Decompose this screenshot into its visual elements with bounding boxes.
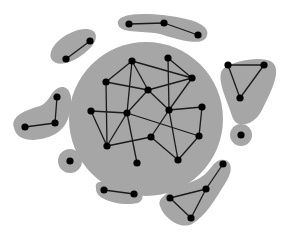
node-dot [236,94,243,101]
node-dot [62,55,69,62]
node-dot [100,186,107,193]
node-dot [21,123,28,130]
node-dot [224,61,231,68]
node-dot [194,31,201,38]
node-dot [51,119,58,126]
node-dot [187,214,194,221]
cluster-hulls [13,14,276,226]
left-chain-hull [13,87,71,140]
node-dot [66,157,73,164]
node-dot [128,57,135,64]
node-dot [102,78,109,85]
node-dot [237,131,244,138]
node-dot [123,109,130,116]
node-dot [160,19,167,26]
node-dot [165,106,172,113]
node-dot [166,194,173,201]
top-chain-hull [118,14,208,42]
node-dot [130,190,137,197]
node-dot [144,86,151,93]
node-dot [87,107,94,114]
node-dot [219,160,226,167]
node-dot [86,37,93,44]
node-dot [260,61,267,68]
node-dot [53,93,60,100]
node-dot [188,74,195,81]
node-dot [195,132,202,139]
upper-left-pair-hull [50,29,95,64]
node-dot [103,142,110,149]
node-dot [164,54,171,61]
node-dot [174,156,181,163]
node-dot [125,20,132,27]
node-dot [198,103,205,110]
node-dot [133,159,140,166]
network-cluster-diagram [0,0,290,241]
diagram-canvas [0,0,290,241]
node-dot [147,133,154,140]
node-dot [202,185,209,192]
